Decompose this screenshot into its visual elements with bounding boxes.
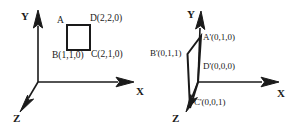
right-y-axis-label: Y bbox=[187, 9, 195, 20]
right-point-b-prime-label: B'(0,1,1) bbox=[150, 49, 182, 58]
vector-drawing bbox=[0, 0, 302, 132]
left-point-a-label: A bbox=[57, 16, 64, 26]
right-point-d-prime-label: D'(0,0,0) bbox=[203, 62, 235, 71]
left-point-d-label: D(2,2,0) bbox=[90, 14, 122, 24]
diagram-canvas: Y X Z A D(2,2,0) B(1,1,0) C(2,1,0) Y X Z… bbox=[0, 0, 302, 132]
left-point-b-label: B(1,1,0) bbox=[52, 51, 84, 61]
left-z-axis-line bbox=[29, 82, 39, 98]
right-point-c-prime-label: C'(0,0,1) bbox=[194, 98, 226, 107]
left-x-axis-arrowhead bbox=[116, 77, 134, 87]
right-x-axis-label: X bbox=[277, 88, 285, 99]
square-abcd bbox=[67, 25, 90, 50]
left-point-c-label: C(2,1,0) bbox=[91, 50, 123, 60]
left-z-axis-arrowhead bbox=[20, 95, 34, 112]
right-point-a-prime-label: A'(0,1,0) bbox=[203, 33, 235, 42]
right-y-axis-arrowhead bbox=[196, 11, 205, 30]
right-z-axis-label: Z bbox=[172, 113, 179, 124]
left-y-axis-label: Y bbox=[21, 11, 29, 22]
left-z-axis-label: Z bbox=[13, 113, 20, 124]
left-x-axis-label: X bbox=[136, 86, 144, 97]
right-x-axis-arrowhead bbox=[261, 77, 279, 87]
left-y-axis-arrowhead bbox=[33, 10, 42, 28]
